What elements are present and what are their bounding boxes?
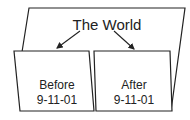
diagram-canvas: The World Before 9-11-01 After 9-11-01	[0, 0, 190, 120]
diagram-title: The World	[73, 16, 142, 33]
before-label: Before	[39, 78, 75, 92]
after-label: After	[121, 78, 146, 92]
before-date: 9-11-01	[37, 93, 78, 107]
arrow-to-before-icon	[57, 31, 80, 48]
arrow-to-after-icon	[114, 31, 134, 49]
after-date: 9-11-01	[114, 93, 155, 107]
